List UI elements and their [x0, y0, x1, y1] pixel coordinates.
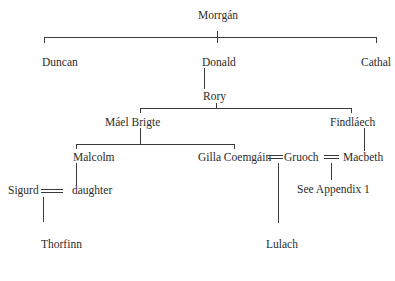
bar-rory-children — [140, 108, 352, 109]
drop-findlaech — [351, 108, 352, 113]
person-mael-brigte: Máel Brigte — [105, 116, 160, 129]
person-duncan: Duncan — [42, 56, 78, 69]
see-appendix-note: See Appendix 1 — [297, 183, 370, 196]
drop-mael-brigte — [140, 108, 141, 113]
person-macbeth: Macbeth — [343, 151, 383, 164]
drop-findlaech-macbeth — [364, 128, 365, 151]
person-donald: Donald — [202, 56, 236, 69]
drop-gilla-coemgain — [234, 144, 235, 149]
drop-cathal — [376, 37, 377, 43]
drop-mael-brigte-children — [140, 128, 141, 145]
person-daughter: daughter — [72, 184, 112, 197]
person-morrgan: Morrgán — [198, 9, 238, 22]
person-rory: Rory — [203, 90, 226, 103]
drop-lulach — [278, 163, 279, 223]
drop-see-appendix — [331, 163, 332, 180]
person-thorfinn: Thorfinn — [41, 238, 82, 251]
drop-duncan — [44, 37, 45, 43]
person-gilla-coemgain: Gilla Coemgáin — [198, 151, 271, 164]
drop-donald-rory — [204, 68, 205, 89]
marriage-gilla-gruoch — [268, 155, 283, 159]
bar-morrgan-children — [44, 37, 377, 38]
person-findlaech: Findláech — [330, 116, 375, 129]
marriage-gruoch-macbeth — [324, 155, 339, 159]
marriage-sigurd-daughter — [41, 189, 63, 193]
person-lulach: Lulach — [266, 238, 298, 251]
drop-sigurd-thorfinn — [43, 197, 44, 222]
person-cathal: Cathal — [361, 56, 391, 69]
drop-malcolm-daughter — [76, 163, 77, 185]
person-gruoch: Gruoch — [284, 151, 319, 164]
bar-mael-brigte-children — [76, 144, 235, 145]
drop-malcolm — [76, 144, 77, 149]
person-sigurd: Sigurd — [8, 184, 39, 197]
person-malcolm: Malcolm — [73, 151, 115, 164]
